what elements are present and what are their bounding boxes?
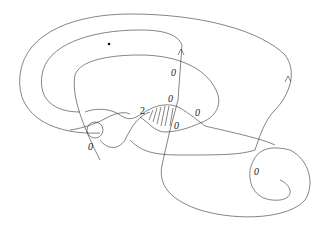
outer-loop — [20, 14, 292, 150]
twist-strand — [70, 113, 130, 130]
outer-arrow-icon — [285, 76, 291, 82]
label-center-lower: 0 — [174, 120, 179, 131]
label-lower-right: 0 — [254, 166, 259, 177]
second-loop — [41, 30, 182, 112]
vertical-strand — [161, 45, 310, 217]
hatched-disk — [149, 106, 173, 126]
knot-diagram: 0 0 0 0 2 0 0 — [0, 0, 325, 233]
vertical-arrow-icon — [178, 49, 184, 55]
label-two: 2 — [140, 105, 145, 116]
label-circle: 0 — [88, 141, 93, 152]
zero-framed-circle — [87, 122, 103, 138]
label-center-top: 0 — [168, 93, 173, 104]
label-upper-vertical: 0 — [171, 67, 176, 78]
label-center-right: 0 — [195, 107, 200, 118]
lower-strand — [130, 140, 255, 155]
band-top — [85, 105, 275, 145]
dot-marker — [108, 43, 111, 46]
